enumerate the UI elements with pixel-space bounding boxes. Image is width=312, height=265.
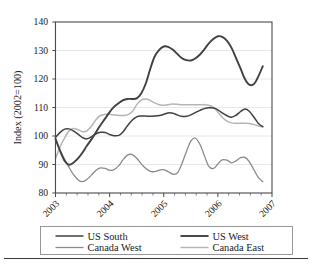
y-tick-label: 80 [38, 187, 48, 198]
line-chart: 1401301201101009080 20032004200520062007… [0, 0, 312, 265]
y-tick-label: 140 [34, 16, 49, 27]
y-tick-label: 110 [34, 102, 48, 113]
legend-item-canada-east-label: Canada East [213, 242, 265, 253]
footer-rule [4, 258, 308, 259]
y-tick-label: 130 [34, 45, 49, 56]
legend-item-canada-west-label: Canada West [88, 242, 142, 253]
y-axis-title: Index (2002=100) [12, 71, 24, 145]
y-tick-label: 120 [34, 73, 49, 84]
legend: US SouthUS WestCanada WestCanada East [41, 227, 293, 255]
legend-item-us-south-label: US South [88, 231, 129, 242]
legend-item-us-west-label: US West [213, 231, 249, 242]
y-tick-label: 100 [34, 130, 49, 141]
y-tick-label: 90 [38, 159, 48, 170]
